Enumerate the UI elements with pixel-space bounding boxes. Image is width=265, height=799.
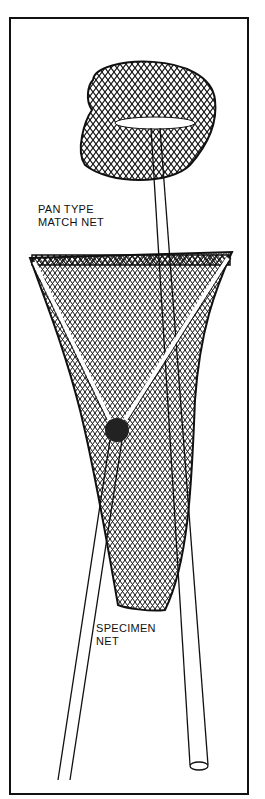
specimen-net-label: SPECIMEN NET: [96, 622, 156, 648]
specimen-net-label-line1: SPECIMEN: [96, 622, 156, 635]
specimen-net-label-line2: NET: [96, 635, 156, 648]
pan-net-label: PAN TYPE MATCH NET: [38, 203, 104, 229]
specimen-net-icon: [30, 252, 232, 611]
pan-net-icon: [81, 62, 216, 180]
pan-net-label-line2: MATCH NET: [38, 216, 104, 229]
pan-net-label-line1: PAN TYPE: [38, 203, 104, 216]
net-illustration: [0, 0, 265, 799]
